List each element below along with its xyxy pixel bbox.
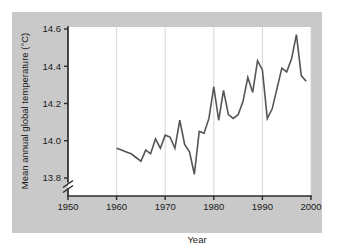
gridlines-group [117,27,311,196]
tick-labels-group: 19501960197019801990200013.814.014.214.4… [43,23,322,212]
y-tick-label: 14.0 [43,135,62,146]
x-tick-label: 1990 [252,201,273,212]
x-axis-title: Year [187,234,206,245]
y-tick-label: 13.8 [43,172,62,183]
temperature-series-line [117,35,307,175]
y-axis-group [64,27,68,182]
x-axis-group [68,196,311,200]
y-tick-label: 14.6 [43,23,62,34]
figure-root: 19501960197019801990200013.814.014.214.4… [0,0,338,250]
x-tick-label: 2000 [300,201,321,212]
x-tick-label: 1980 [203,201,224,212]
x-tick-label: 1950 [57,201,78,212]
y-tick-label: 14.4 [43,61,62,72]
x-tick-label: 1970 [155,201,176,212]
y-axis-title: Mean annual global temperature (°C) [19,33,30,189]
data-series-group [117,35,307,175]
y-tick-label: 14.2 [43,98,62,109]
line-chart: 19501960197019801990200013.814.014.214.4… [0,0,338,250]
x-tick-label: 1960 [106,201,127,212]
